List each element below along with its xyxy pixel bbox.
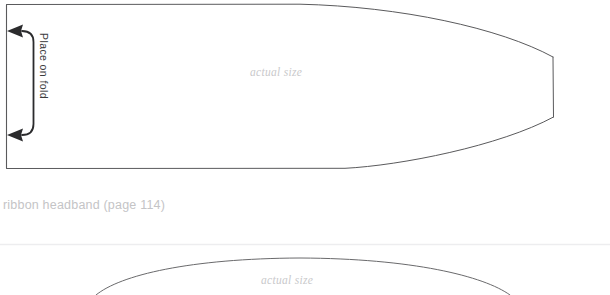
fold-bracket-spine [22, 31, 34, 135]
bottom-edge-curve [7, 117, 554, 169]
fold-arrow-up-icon [7, 25, 23, 38]
pattern-shapes-canvas [0, 0, 610, 295]
actual-size-label-top: actual size [250, 66, 302, 78]
ribbon-headband-outline [7, 4, 554, 168]
right-end-edge [553, 57, 554, 117]
place-on-fold-marker [7, 25, 34, 142]
fold-arrow-down-icon [7, 129, 23, 142]
pattern-template-page: actual size Place on fold ribbon headban… [0, 0, 610, 295]
pattern-caption: ribbon headband (page 114) [3, 198, 165, 212]
place-on-fold-label: Place on fold [36, 33, 50, 129]
actual-size-label-bottom: actual size [261, 274, 313, 286]
top-edge-curve [7, 4, 554, 57]
